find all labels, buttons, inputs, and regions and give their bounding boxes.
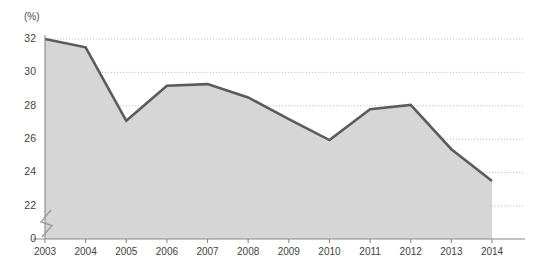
- x-axis-tick-label: 2006: [156, 246, 179, 257]
- x-axis-tick-label: 2010: [318, 246, 341, 257]
- x-axis-group: [33, 239, 525, 243]
- x-tick-labels-group: 2003200420052006200720082009201020112012…: [34, 246, 504, 257]
- y-tick-labels-group: 2224262830320: [24, 32, 36, 244]
- x-axis-tick-label: 2004: [75, 246, 98, 257]
- y-axis-unit-label: (%): [24, 11, 40, 22]
- x-axis-tick-label: 2012: [400, 246, 423, 257]
- x-axis-tick-label: 2014: [481, 246, 504, 257]
- y-axis-tick-label: 30: [24, 65, 36, 77]
- x-axis-tick-label: 2007: [196, 246, 219, 257]
- series-area-fill: [45, 39, 492, 239]
- x-axis-tick-label: 2005: [115, 246, 138, 257]
- y-axis-tick-label: 26: [24, 132, 36, 144]
- x-axis-tick-label: 2009: [278, 246, 301, 257]
- x-axis-tick-label: 2003: [34, 246, 57, 257]
- y-axis-baseline-label: 0: [30, 232, 36, 244]
- x-axis-ticks: [45, 239, 492, 243]
- y-axis-tick-label: 28: [24, 99, 36, 111]
- area-chart: 2224262830320 20032004200520062007200820…: [0, 0, 543, 269]
- x-axis-tick-label: 2011: [359, 246, 381, 257]
- y-axis-tick-label: 32: [24, 32, 36, 44]
- y-axis-tick-label: 22: [24, 199, 36, 211]
- series-area-group: [45, 39, 492, 239]
- y-axis-tick-label: 24: [24, 165, 36, 177]
- x-axis-tick-label: 2008: [237, 246, 260, 257]
- chart-container: 2224262830320 20032004200520062007200820…: [0, 0, 543, 269]
- x-axis-tick-label: 2013: [440, 246, 463, 257]
